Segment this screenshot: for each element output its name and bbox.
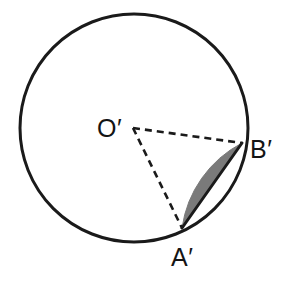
geometry-canvas: O′ A′ B′ [0,0,290,282]
label-point-a-prime: A′ [171,243,193,271]
label-point-b-prime: B′ [250,135,272,163]
geometry-figure: O′ A′ B′ [0,0,290,282]
label-center-o-prime: O′ [97,114,122,142]
